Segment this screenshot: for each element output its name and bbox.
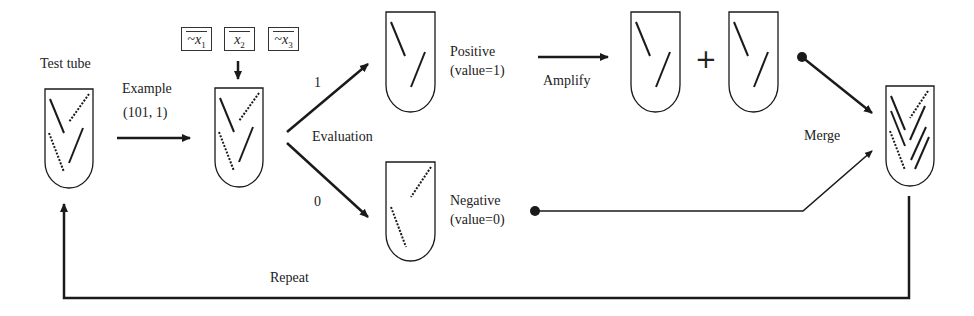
- negative-label: Negative: [450, 192, 501, 209]
- positive-value: (value=1): [450, 62, 505, 79]
- evaluation-label: Evaluation: [312, 128, 373, 145]
- branch-false-label: 0: [314, 193, 321, 210]
- plus-sign: +: [695, 46, 717, 72]
- merge-arrow-negative: [535, 151, 872, 211]
- test-tube-label: Test tube: [40, 55, 91, 72]
- example-value: (101, 1): [123, 104, 167, 121]
- merge-label: Merge: [804, 127, 840, 144]
- variable-box-x2: x2: [224, 27, 255, 51]
- negative-value: (value=0): [450, 211, 505, 228]
- positive-test-tube: [386, 12, 435, 112]
- amplify-label: Amplify: [543, 72, 590, 89]
- variable-box-not-x3: ~x3: [268, 27, 299, 51]
- example-label: Example: [122, 80, 172, 97]
- positive-label: Positive: [450, 43, 495, 60]
- branch-true-label: 1: [314, 74, 321, 91]
- initial-test-tube: [45, 89, 93, 188]
- amplified-test-tube-b: [729, 12, 778, 112]
- negative-test-tube: [386, 162, 435, 261]
- merge-arrow-positive: [802, 57, 872, 113]
- example-test-tube: [215, 88, 263, 187]
- variable-box-not-x1: ~x1: [181, 27, 212, 51]
- merged-test-tube: [886, 86, 934, 186]
- repeat-label: Repeat: [270, 269, 309, 286]
- branch-true-arrow: [287, 64, 368, 132]
- amplified-test-tube-a: [631, 12, 680, 112]
- branch-false-arrow: [287, 143, 368, 217]
